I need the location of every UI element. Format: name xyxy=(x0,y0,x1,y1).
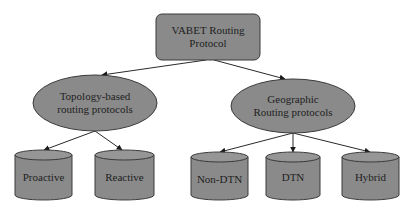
cylinder-hybrid xyxy=(342,152,399,200)
edge-topology-to-reactive xyxy=(95,131,122,150)
edge-root-to-geographic xyxy=(214,60,285,79)
cylinder-dtn xyxy=(266,152,320,200)
geographic-node-shape xyxy=(231,79,355,133)
cylinder-proactive xyxy=(15,150,72,200)
diagram-canvas xyxy=(0,0,414,216)
edge-geographic-to-hybrid xyxy=(293,133,370,152)
edge-root-to-topology xyxy=(102,60,206,75)
cylinder-nondtn xyxy=(191,152,248,200)
edge-topology-to-proactive xyxy=(44,131,95,150)
cylinder-reactive xyxy=(95,150,154,200)
topology-node-shape xyxy=(33,75,157,131)
edge-geographic-to-nondtn xyxy=(220,133,293,152)
root-node-shape xyxy=(156,14,260,60)
